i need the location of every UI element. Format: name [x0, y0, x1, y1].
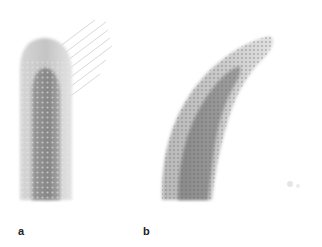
panel-b: b — [140, 0, 322, 247]
panel-b-illustration — [140, 0, 322, 247]
panel-a: a — [0, 0, 160, 247]
panel-a-illustration — [0, 0, 160, 247]
panel-label-a: a — [18, 225, 24, 237]
panel-label-b: b — [143, 225, 150, 237]
